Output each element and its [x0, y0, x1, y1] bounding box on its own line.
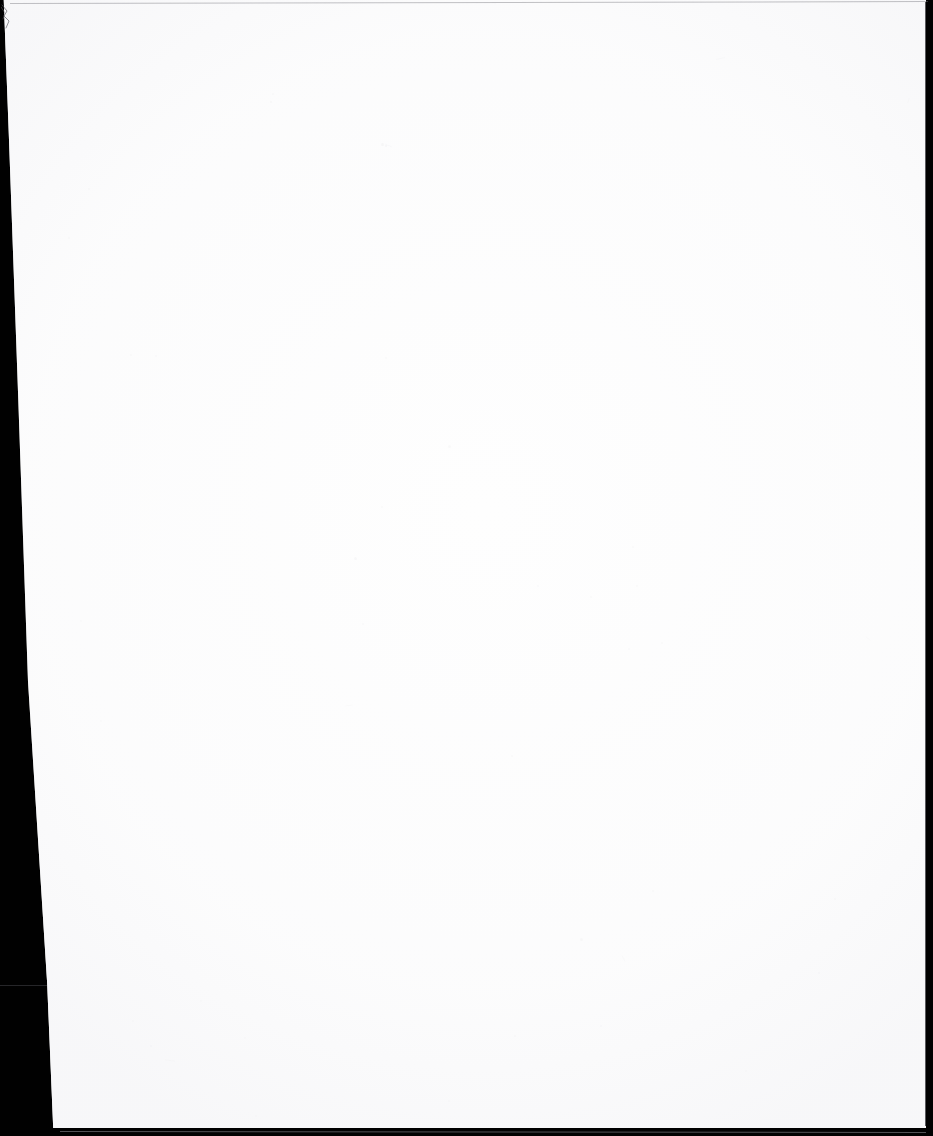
gutter-horizontal-seam	[0, 985, 47, 986]
page-sheet	[0, 0, 933, 1136]
page-right-edge-line	[925, 2, 926, 1126]
scanned-page-image	[0, 0, 933, 1136]
